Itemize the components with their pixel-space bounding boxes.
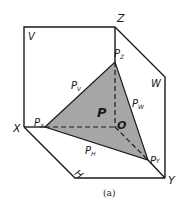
plane-trace-diagram: Z X Y O V W H P PZ PX PY PV PW PH (a) [0,0,186,210]
svg-text:PV: PV [71,80,82,92]
svg-text:PH: PH [85,145,96,157]
h-plane-label: H [72,167,85,181]
origin-label: O [117,119,126,132]
svg-text:PZ: PZ [114,48,125,60]
px-label: PX [34,117,45,129]
figure-caption: (a) [103,188,115,198]
pv-trace-label: PV [71,80,82,92]
y-axis-label: Y [168,174,176,187]
ph-trace-label: PH [85,145,96,157]
svg-text:PX: PX [34,117,45,129]
plane-p-label: P [97,105,107,120]
v-plane-label: V [28,31,36,42]
svg-text:PY: PY [150,155,161,166]
svg-text:PW: PW [132,98,145,110]
py-label: PY [150,155,161,166]
z-axis-label: Z [116,12,125,25]
pz-label: PZ [114,48,125,60]
pw-trace-label: PW [132,98,145,110]
w-plane-label: W [151,78,162,89]
x-axis-label: X [12,122,21,135]
